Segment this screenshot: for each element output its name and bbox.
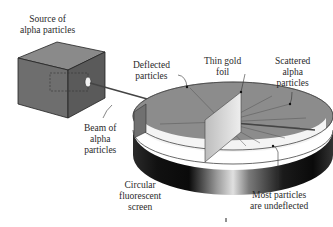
rutherford-diagram: Source of alpha particles Deflected part…: [0, 0, 333, 227]
label-scattered-particles: Scattered alpha particles: [275, 56, 310, 89]
label-gold-foil: Thin gold foil: [204, 56, 241, 78]
label-source: Source of alpha particles: [20, 14, 75, 36]
label-fluorescent-screen: Circular fluorescent screen: [119, 180, 161, 213]
alpha-source-box: [18, 42, 105, 118]
label-beam: Beam of alpha particles: [84, 123, 116, 156]
label-deflected-particles: Deflected particles: [133, 60, 170, 82]
label-undeflected: Most particles are undeflected: [250, 190, 308, 212]
